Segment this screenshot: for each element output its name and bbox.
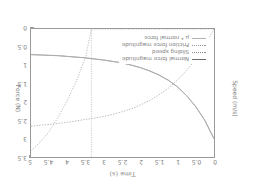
y-tick-label: 0	[23, 24, 27, 32]
y-tick-label: 0.5	[17, 43, 27, 51]
legend-item-label: Friction force magnitude	[122, 42, 189, 48]
legend-item-label: Sliding speed	[152, 49, 189, 55]
x-tick-label: 1.5	[150, 159, 170, 166]
legend-swatch-icon	[192, 42, 206, 48]
chart-figure: Time (s) Speed (m/s) Force (N) 00.511.52…	[0, 0, 253, 194]
legend-item[interactable]: μ * normal force	[122, 35, 206, 41]
y-axis-right-title: Force (N)	[15, 59, 22, 139]
legend-item-label: μ * normal force	[144, 35, 189, 41]
y-axis-left-title: Speed (m/s)	[232, 59, 239, 139]
x-tick-label: 1	[168, 159, 188, 166]
y-tick-label: 3.5	[17, 154, 27, 162]
y-tick-label: 3	[23, 135, 27, 143]
y-tick-label: 2.5	[17, 117, 27, 125]
x-axis-title: Time (s)	[30, 171, 215, 178]
legend-swatch-icon	[192, 49, 206, 55]
y-tick-label: 1.5	[17, 80, 27, 88]
x-tick-label: 4	[57, 159, 77, 166]
legend-swatch-icon	[192, 35, 206, 41]
legend-item-label: Normal force magnitude	[122, 56, 189, 62]
x-tick-label: 4.5	[39, 159, 59, 166]
x-tick-label: 3	[94, 159, 114, 166]
curve-series-0	[31, 55, 214, 139]
x-tick-label: 0.5	[187, 159, 207, 166]
x-tick-label: 3.5	[76, 159, 96, 166]
legend-item[interactable]: Normal force magnitude	[122, 56, 206, 62]
x-tick-label: 2.5	[113, 159, 133, 166]
curve-series-3	[31, 55, 214, 139]
y-tick-label: 2	[23, 98, 27, 106]
chart-legend: Normal force magnitudeSliding speedFrict…	[119, 32, 209, 64]
legend-swatch-icon	[192, 56, 206, 62]
y-tick-label: 1	[23, 61, 27, 69]
legend-item[interactable]: Friction force magnitude	[122, 42, 206, 48]
x-tick-label: 2	[131, 159, 151, 166]
x-tick-label: 0	[205, 159, 225, 166]
legend-item[interactable]: Sliding speed	[122, 49, 206, 55]
